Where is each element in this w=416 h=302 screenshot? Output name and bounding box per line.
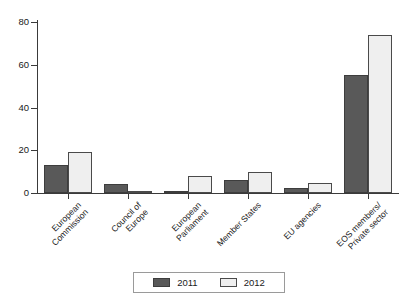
y-tick-mark xyxy=(31,150,37,151)
bar-0-1 xyxy=(104,184,128,193)
x-tick-mark xyxy=(68,194,69,199)
y-tick-label: 60 xyxy=(0,60,29,70)
bar-1-1 xyxy=(128,191,152,193)
y-tick-mark xyxy=(31,22,37,23)
legend: 20112012 xyxy=(133,272,285,293)
bar-0-4 xyxy=(284,188,308,193)
bar-0-5 xyxy=(344,75,368,193)
y-tick-label-text: 20 xyxy=(3,145,29,155)
legend-label: 2012 xyxy=(244,278,265,288)
legend-label: 2011 xyxy=(177,278,197,288)
bar-1-2 xyxy=(188,176,212,193)
legend-swatch-icon xyxy=(220,278,237,287)
bar-1-4 xyxy=(308,183,332,193)
bar-1-0 xyxy=(68,152,92,193)
y-tick-mark xyxy=(31,193,37,194)
y-tick-label: 80 xyxy=(0,17,29,27)
legend-entry-2011: 2011 xyxy=(153,278,197,288)
legend-swatch-icon xyxy=(153,278,170,287)
y-tick-label-text: 40 xyxy=(3,103,29,113)
legend-entry-2012: 2012 xyxy=(220,278,265,288)
y-tick-label-text: 80 xyxy=(3,17,29,27)
y-tick-mark xyxy=(31,65,37,66)
bar-1-3 xyxy=(248,172,272,193)
x-tick-mark xyxy=(128,194,129,199)
x-tick-mark xyxy=(368,194,369,199)
bar-0-2 xyxy=(164,191,188,193)
x-axis-line xyxy=(37,193,399,194)
bar-0-0 xyxy=(44,165,68,193)
bar-1-5 xyxy=(368,35,392,193)
plot-area xyxy=(38,22,398,193)
y-tick-label: 0 xyxy=(0,188,29,198)
y-tick-label-text: 0 xyxy=(3,188,29,198)
x-tick-mark xyxy=(308,194,309,199)
y-tick-mark xyxy=(31,108,37,109)
bar-chart: 020406080 European CommissionCouncil of … xyxy=(0,0,416,302)
y-tick-label: 40 xyxy=(0,103,29,113)
x-tick-mark xyxy=(188,194,189,199)
x-axis-category-label: EOS members/ Private sector xyxy=(305,200,390,285)
y-tick-label-text: 60 xyxy=(3,60,29,70)
bar-0-3 xyxy=(224,180,248,193)
x-tick-mark xyxy=(248,194,249,199)
y-tick-label: 20 xyxy=(0,145,29,155)
